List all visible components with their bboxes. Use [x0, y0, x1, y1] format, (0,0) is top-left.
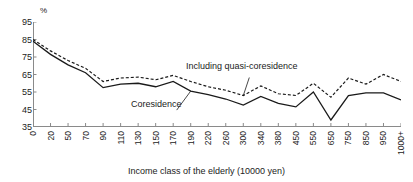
x-axis-tick-labels: 0205070901101301501701902202603003403804… — [0, 131, 413, 171]
x-axis-tick-650: 650 — [327, 131, 336, 145]
x-axis-tick-750: 750 — [344, 131, 353, 145]
annotation-including-quasi-coresidence: Including quasi-coresidence — [186, 61, 298, 71]
x-axis-tick-90: 90 — [99, 131, 108, 140]
x-axis-tick-50: 50 — [64, 131, 73, 140]
x-axis-tick-340: 340 — [257, 131, 266, 145]
chart-figure: % 95857565554535 02050709011013015017019… — [0, 0, 413, 182]
series-canvas — [33, 22, 401, 127]
x-axis-tick-170: 170 — [169, 131, 178, 145]
x-axis-tick-300: 300 — [239, 131, 248, 145]
y-axis-tick-75: 75 — [10, 52, 32, 62]
x-axis-tick-950: 950 — [379, 131, 388, 145]
x-axis-tick-220: 220 — [204, 131, 213, 145]
y-axis-tick-55: 55 — [10, 87, 32, 97]
x-axis-tick-260: 260 — [222, 131, 231, 145]
y-axis-tick-45: 45 — [10, 105, 32, 115]
y-axis-tick-85: 85 — [10, 35, 32, 45]
x-axis-tick-70: 70 — [82, 131, 91, 140]
x-axis-tick-190: 190 — [187, 131, 196, 145]
x-axis-tick-130: 130 — [134, 131, 143, 145]
x-axis-tick-450: 450 — [292, 131, 301, 145]
x-axis-tick-1000+: 1000+ — [397, 131, 406, 155]
y-axis-tick-95: 95 — [10, 17, 32, 27]
x-axis-tick-110: 110 — [117, 131, 126, 145]
y-axis-tick-65: 65 — [10, 70, 32, 80]
x-axis-tick-20: 20 — [47, 131, 56, 140]
x-axis-tick-550: 550 — [309, 131, 318, 145]
x-axis-tick-380: 380 — [274, 131, 283, 145]
x-axis-tick-150: 150 — [152, 131, 161, 145]
series-line-coresidence — [33, 41, 401, 120]
x-axis-title: Income class of the elderly (10000 yen) — [0, 166, 413, 176]
x-axis-tick-850: 850 — [362, 131, 371, 145]
y-axis-unit-label: % — [40, 6, 47, 15]
plot-area — [33, 22, 401, 127]
x-axis-tick-0: 0 — [29, 131, 38, 136]
annotation-coresidence: Coresidence — [131, 99, 182, 109]
